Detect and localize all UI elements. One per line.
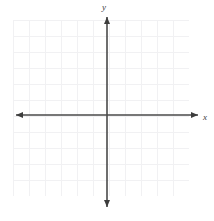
x-axis-left-arrow-icon xyxy=(16,112,23,118)
x-axis-right-arrow-icon xyxy=(191,112,198,118)
y-axis-up-arrow-icon xyxy=(104,17,110,24)
y-axis-down-arrow-icon xyxy=(104,200,110,207)
axes-group xyxy=(0,0,214,221)
coordinate-plane-figure: y x xyxy=(0,0,214,221)
x-axis-label: x xyxy=(203,113,207,122)
y-axis-label: y xyxy=(102,3,106,12)
